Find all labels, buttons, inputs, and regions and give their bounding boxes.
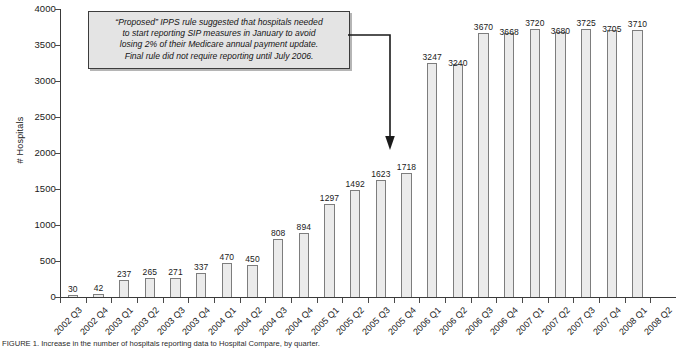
bar	[196, 273, 207, 297]
y-tick-label: 3500	[0, 40, 56, 50]
bar	[376, 180, 387, 297]
bar	[478, 33, 489, 297]
y-tick-label: 4000	[0, 4, 56, 14]
x-tick-mark	[265, 298, 266, 303]
y-tick-label: 3000	[0, 76, 56, 86]
bar-value-label: 3668	[493, 27, 525, 37]
bar	[401, 173, 412, 297]
x-tick-mark	[445, 298, 446, 303]
annotation-line: losing 2% of their Medicare annual payme…	[96, 39, 342, 50]
y-tick-label: 0	[0, 292, 56, 302]
x-tick-mark	[573, 298, 574, 303]
x-tick-mark	[137, 298, 138, 303]
bar	[350, 190, 361, 297]
bar	[504, 33, 515, 297]
y-tick-label: 1500	[0, 184, 56, 194]
bar	[273, 239, 284, 297]
x-tick-mark	[496, 298, 497, 303]
bar	[145, 278, 156, 297]
bar-value-label: 1297	[314, 193, 346, 203]
bar	[453, 64, 464, 297]
y-tick-label: 1000	[0, 220, 56, 230]
x-tick-mark	[188, 298, 189, 303]
bar-value-label: 1492	[339, 179, 371, 189]
bar	[632, 30, 643, 297]
figure-caption: FIGURE 1. Increase in the number of hosp…	[2, 339, 679, 348]
bar	[427, 63, 438, 297]
y-tick-label: 500	[0, 256, 56, 266]
y-axis-tick-labels: 40003500300025002000150010005000	[0, 0, 56, 347]
bar	[247, 265, 258, 297]
x-tick-mark	[471, 298, 472, 303]
bar	[530, 29, 541, 297]
x-tick-mark	[60, 298, 61, 303]
bar-value-label: 3710	[622, 19, 654, 29]
x-tick-mark	[342, 298, 343, 303]
bar-value-label: 450	[237, 254, 269, 264]
x-tick-mark	[111, 298, 112, 303]
annotation-callout: “Proposed” IPPS rule suggested that hosp…	[88, 11, 350, 69]
x-tick-mark	[599, 298, 600, 303]
x-tick-mark	[163, 298, 164, 303]
annotation-line: to start reporting SIP measures in Janua…	[96, 28, 342, 39]
x-tick-mark	[419, 298, 420, 303]
bar	[581, 29, 592, 297]
x-tick-mark	[86, 298, 87, 303]
bar-value-label: 1718	[391, 162, 423, 172]
x-tick-mark	[548, 298, 549, 303]
x-tick-mark	[522, 298, 523, 303]
bar-value-label: 894	[288, 222, 320, 232]
x-tick-mark	[240, 298, 241, 303]
bar	[119, 280, 130, 297]
x-tick-mark	[394, 298, 395, 303]
bar	[607, 30, 618, 297]
x-tick-mark	[625, 298, 626, 303]
y-tick-label: 2000	[0, 148, 56, 158]
x-tick-mark	[317, 298, 318, 303]
x-tick-mark	[368, 298, 369, 303]
bar-value-label: 42	[83, 283, 115, 293]
bar	[222, 263, 233, 297]
bar-value-label: 337	[185, 262, 217, 272]
bar	[555, 32, 566, 297]
bar	[324, 204, 335, 297]
bar-value-label: 3240	[442, 58, 474, 68]
x-tick-mark	[291, 298, 292, 303]
bar	[299, 233, 310, 297]
bar	[170, 278, 181, 298]
x-tick-mark	[650, 298, 651, 303]
y-tick-label: 2500	[0, 112, 56, 122]
annotation-line: Final rule did not require reporting unt…	[96, 51, 342, 62]
x-tick-mark	[214, 298, 215, 303]
annotation-line: “Proposed” IPPS rule suggested that hosp…	[96, 17, 342, 28]
